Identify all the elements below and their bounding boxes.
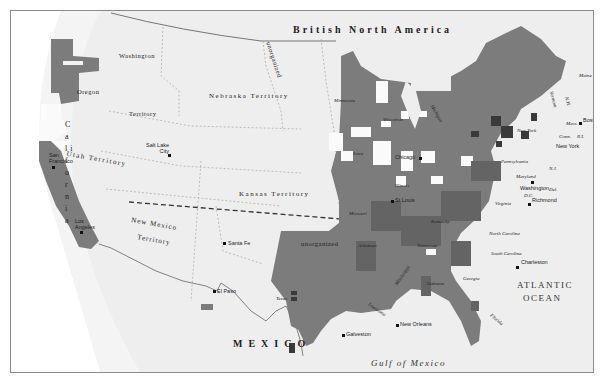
- label-unorganized-south: unorganized: [301, 241, 339, 248]
- city-marker-salt-lake-city: [168, 154, 171, 157]
- city-marker-el-paso: [213, 290, 216, 293]
- label-santa-fe: Santa Fe: [228, 241, 250, 247]
- city-marker-chicago: [419, 157, 422, 160]
- label-gulf-of-mexico: Gulf of Mexico: [371, 359, 446, 368]
- label-ocean: OCEAN: [523, 294, 562, 303]
- label-pennsylvania: Pennsylvania: [501, 159, 528, 164]
- label-connecticut: Conn.: [559, 134, 571, 139]
- label-washington-territory: Territory: [129, 111, 157, 118]
- label-new-jersey: N.J.: [549, 166, 557, 171]
- label-san-francisco: San Francisco: [49, 153, 79, 164]
- label-atlantic: ATLANTIC: [517, 281, 573, 290]
- label-alabama: Alabama: [426, 281, 444, 286]
- city-marker-st-louis: [391, 200, 394, 203]
- label-los-angeles: Los Angeles: [75, 219, 103, 230]
- label-british-north-america: British North America: [293, 25, 452, 35]
- label-iowa: Iowa: [353, 151, 363, 156]
- label-oregon: Oregon: [77, 89, 100, 96]
- label-maine: Maine: [579, 73, 592, 78]
- label-tennessee: Tennessee: [417, 243, 437, 248]
- label-salt-lake-city: Salt Lake City: [139, 143, 169, 154]
- city-marker-galveston: [342, 334, 345, 337]
- city-marker-new-orleans: [396, 324, 399, 327]
- label-kentucky: Kentucky: [431, 219, 450, 224]
- label-maryland: Maryland: [516, 174, 536, 179]
- city-marker-charleston: [516, 266, 519, 269]
- label-washington-dc: Washington: [520, 186, 549, 192]
- label-massachusetts: Mass.: [566, 121, 578, 126]
- label-virginia: Virginia: [495, 201, 511, 206]
- label-delaware: Del.: [549, 187, 557, 192]
- label-arkansas: Arkansas: [358, 243, 377, 248]
- label-california: C a l i f o r n i a: [65, 119, 73, 227]
- city-marker-los-angeles: [80, 231, 83, 234]
- label-mexico: MEXICO: [233, 339, 311, 349]
- label-nebraska-territory: Nebraska Territory: [209, 93, 289, 100]
- label-rhode-island: R.I.: [577, 134, 584, 139]
- label-south-carolina: South Carolina: [491, 251, 522, 256]
- label-georgia: Georgia: [463, 276, 479, 281]
- label-el-paso: El Paso: [217, 289, 236, 295]
- label-new-york-city: New York: [556, 144, 579, 150]
- label-illinois: Illinois: [395, 183, 409, 188]
- label-richmond: Richmond: [532, 198, 557, 204]
- label-st-louis: St Louis: [395, 198, 415, 204]
- label-wisconsin: Wisconsin: [383, 117, 403, 122]
- label-kansas-territory: Kansas Territory: [239, 191, 310, 198]
- label-boston: Boston: [583, 118, 594, 124]
- dashed-boundary: [129, 202, 341, 219]
- label-charleston: Charleston: [521, 260, 548, 266]
- label-new-orleans: New Orleans: [400, 322, 432, 328]
- map-frame: British North America MEXICO Gulf of Mex…: [10, 10, 594, 373]
- label-missouri: Missouri: [349, 211, 367, 216]
- city-marker-boston: [579, 122, 582, 125]
- label-texas: Texas: [276, 296, 287, 301]
- label-new-york-state: New York: [517, 128, 536, 133]
- label-galveston: Galveston: [346, 332, 371, 338]
- label-washington: Washington: [119, 53, 155, 60]
- label-chicago: Chicago: [395, 155, 415, 161]
- label-minnesota: Minnesota: [334, 98, 355, 103]
- city-marker-san-francisco: [52, 166, 55, 169]
- city-marker-washington-dc: [531, 181, 534, 184]
- city-marker-richmond: [528, 203, 531, 206]
- city-marker-santa-fe: [223, 242, 226, 245]
- label-north-carolina: North Carolina: [489, 231, 520, 236]
